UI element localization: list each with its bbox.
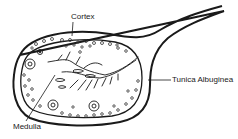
label-cortex: Cortex [71, 13, 95, 21]
cortex-leader-line [72, 22, 73, 36]
label-medulla: Medulla [13, 123, 41, 131]
developing-follicles [25, 50, 99, 112]
outer-capsule [13, 6, 224, 125]
medulla-vessels [48, 52, 138, 90]
ovary-diagram [0, 0, 238, 139]
medulla-leader-line [26, 75, 55, 121]
label-tunica-albuginea: Tunica Albuginea [172, 76, 233, 84]
